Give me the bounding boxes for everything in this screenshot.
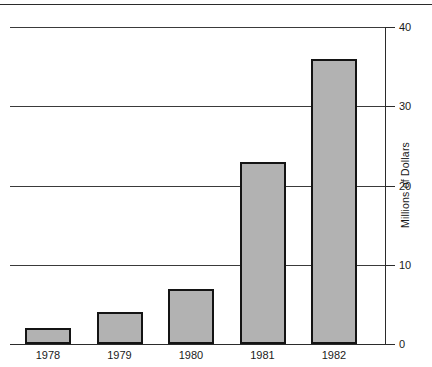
y-tick-mark <box>386 344 395 345</box>
bar-chart-figure: 010203040 19781979198019811982 Millions … <box>0 0 432 367</box>
plot-area <box>10 20 385 350</box>
category-axis-line <box>10 344 386 345</box>
y-tick-mark <box>386 265 395 266</box>
y-tick-label-40: 40 <box>399 22 411 33</box>
y-tick-mark <box>386 186 395 187</box>
y-tick-label-0: 0 <box>399 339 405 350</box>
x-axis-label-1981: 1981 <box>233 350 293 361</box>
figure-top-rule <box>0 4 432 5</box>
x-axis-label-1982: 1982 <box>304 350 364 361</box>
bar-1981 <box>240 162 286 344</box>
y-tick-mark <box>386 27 395 28</box>
bar-1980 <box>168 289 214 344</box>
y-axis-title: Millions of Dollars <box>399 142 411 228</box>
x-axis-label-1980: 1980 <box>161 350 221 361</box>
bar-1978 <box>25 328 71 344</box>
gridline <box>10 27 385 28</box>
x-axis-label-1979: 1979 <box>90 350 150 361</box>
bar-1979 <box>97 312 143 344</box>
x-axis-label-1978: 1978 <box>18 350 78 361</box>
y-tick-label-10: 10 <box>399 259 411 270</box>
bar-1982 <box>311 59 357 344</box>
y-tick-mark <box>386 106 395 107</box>
y-tick-label-30: 30 <box>399 101 411 112</box>
